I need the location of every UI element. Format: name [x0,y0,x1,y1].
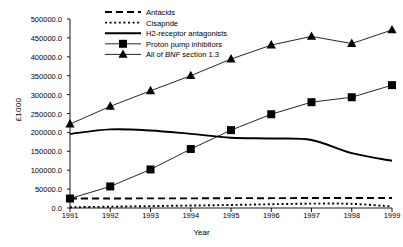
series-line-antacids [70,198,392,199]
series-line-proton-pump-inhibitors [70,85,392,198]
data-point-square [106,182,114,190]
chart-plot-area: AntacidsCisaprideH2-receptor antagonists… [0,0,403,247]
legend-entry: All of BNF section 1.3 [105,49,219,59]
chart-figure: £1000 0.050000.0100000.0150000.0200000.0… [0,0,403,247]
data-point-triangle [186,71,195,79]
data-point-square [66,195,74,203]
legend-marker-square [119,40,127,48]
data-point-square [348,93,356,101]
legend-label: All of BNF section 1.3 [146,50,219,59]
data-point-square [388,81,396,89]
legend-entry: Proton pump inhibitors [105,40,222,49]
legend-label: Cisapride [146,19,178,28]
legend-entry: Cisapride [105,19,178,28]
legend-label: Proton pump inhibitors [146,40,222,49]
legend-entry: H2-receptor antagonists [105,29,227,38]
data-point-triangle [387,25,396,33]
legend-marker-triangle [118,49,127,57]
data-point-square [308,98,316,106]
legend-label: Antacids [146,8,175,17]
data-point-square [147,165,155,173]
data-point-triangle [65,119,74,127]
series-line-cisapride [70,204,392,208]
data-point-square [227,126,235,134]
data-point-square [267,110,275,118]
data-point-triangle [307,31,316,39]
data-point-square [187,145,195,153]
legend-entry: Antacids [105,8,175,17]
legend-label: H2-receptor antagonists [146,29,227,38]
